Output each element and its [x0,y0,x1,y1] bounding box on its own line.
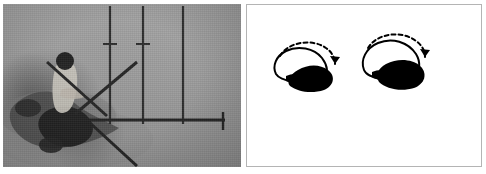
right-arrowhead-icon [420,49,430,57]
left-outline-shape [274,42,340,92]
photo-panel [3,4,241,167]
photo-grain-overlay [3,4,241,167]
right-outline-shape [363,34,430,89]
left-arrowhead-icon [330,56,340,64]
drawing-content-layer [246,4,482,167]
figure-root [0,0,486,174]
drawing-panel [246,4,482,167]
